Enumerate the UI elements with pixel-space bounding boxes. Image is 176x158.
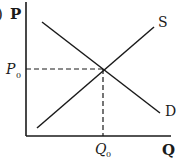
supply-demand-diagram: ) P Q S D P 0 Q 0 — [0, 0, 176, 158]
y-axis-label: P — [10, 5, 21, 23]
supply-label: S — [158, 14, 168, 30]
price-equilibrium-label: P 0 — [5, 61, 21, 80]
price-subscript: 0 — [16, 71, 21, 80]
demand-label: D — [165, 103, 176, 119]
x-axis-label: Q — [162, 141, 175, 158]
supply-curve — [37, 27, 154, 128]
quantity-subscript: 0 — [106, 150, 111, 158]
panel-marker: ) — [0, 5, 3, 23]
price-label: P — [5, 61, 16, 77]
demand-curve — [42, 22, 160, 113]
quantity-equilibrium-label: Q 0 — [95, 141, 111, 158]
